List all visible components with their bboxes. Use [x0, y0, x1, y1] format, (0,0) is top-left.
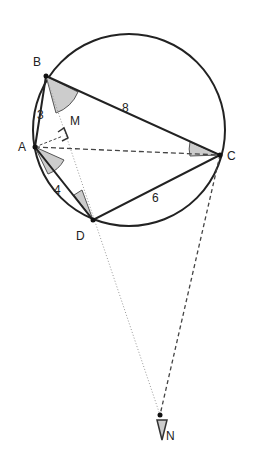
angle-B	[46, 76, 78, 113]
right-angle-M	[58, 128, 68, 141]
label-M: M	[70, 114, 80, 128]
line-BN	[46, 76, 160, 415]
label-C: C	[227, 149, 236, 163]
segment-AM	[35, 136, 63, 147]
diagram-canvas: B A C D M N 3 8 6 4	[0, 0, 254, 469]
length-CD: 6	[152, 191, 159, 205]
geometry-diagram: B A C D M N 3 8 6 4	[0, 0, 254, 469]
label-D: D	[76, 229, 85, 243]
line-CN	[160, 155, 220, 415]
label-N: N	[166, 429, 175, 443]
label-A: A	[18, 140, 26, 154]
length-DA: 4	[54, 183, 61, 197]
length-BC: 8	[122, 101, 129, 115]
length-AB: 3	[37, 108, 44, 122]
label-B: B	[33, 55, 41, 69]
